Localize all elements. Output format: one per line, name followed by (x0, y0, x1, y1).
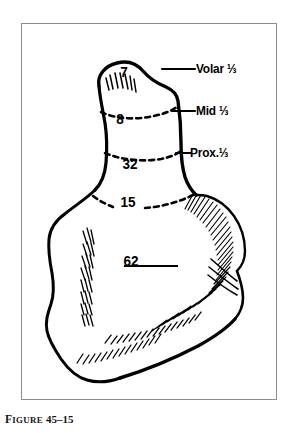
zone-value-upper-waist: 8 (113, 110, 127, 127)
label-volar-third: Volar ⅓ (196, 61, 237, 76)
label-volar-text: Volar (196, 61, 224, 76)
zone-value-proximal-pole: 7 (117, 63, 131, 80)
label-mid-text: Mid (196, 103, 216, 118)
zone-boundary-waist (93, 195, 193, 208)
zone-value-distal-body: 62 (119, 252, 142, 269)
scaphoid-line-drawing (21, 23, 277, 400)
hatching-distal-ridge (152, 194, 233, 331)
figure-container: 7 8 32 15 62 Volar ⅓ Mid ⅓ Prox.⅓ FIGURE… (0, 0, 298, 434)
zone-value-lower-waist: 32 (118, 155, 141, 172)
caption-number: 45–15 (46, 413, 74, 425)
label-prox-text: Prox. (190, 145, 219, 160)
label-prox-third: Prox.⅓ (190, 145, 228, 160)
label-volar-fraction: ⅓ (227, 61, 237, 76)
zone-value-distal-waist: 15 (116, 193, 139, 210)
figure-caption: FIGURE45–15 (5, 413, 74, 425)
boundary-mid-prox (105, 151, 181, 160)
label-prox-fraction: ⅓ (219, 145, 229, 160)
caption-word: IGURE (12, 415, 43, 425)
label-mid-third: Mid ⅓ (196, 103, 229, 118)
hatching-lower-band-lower (77, 334, 161, 364)
label-mid-fraction: ⅓ (219, 103, 229, 118)
hatching-left-vertical-band (81, 228, 94, 326)
